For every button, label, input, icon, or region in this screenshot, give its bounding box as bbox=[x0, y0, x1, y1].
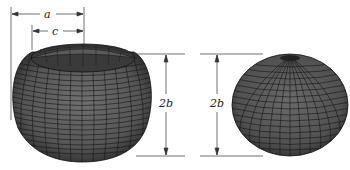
diagram-canvas: a c 2b bbox=[0, 0, 350, 170]
spheroid-figure bbox=[230, 54, 350, 158]
label-2b-torus: 2b bbox=[158, 97, 173, 110]
label-2b-spheroid: 2b bbox=[209, 97, 224, 110]
label-a: a bbox=[44, 8, 51, 21]
torus-figure bbox=[5, 44, 160, 165]
label-c: c bbox=[52, 25, 58, 38]
